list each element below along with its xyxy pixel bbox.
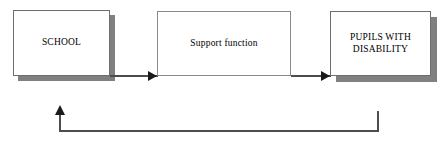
arrow-right-icon-school-to-support (148, 71, 157, 81)
arrow-right-icon-support-to-pupils (321, 71, 330, 81)
node-school[interactable]: SCHOOL (13, 10, 110, 76)
arrow-up-icon-feedback-to-school (55, 105, 65, 115)
diagram-canvas: SCHOOL Support function PUPILS WITH DISA… (0, 0, 445, 147)
edge-feedback-segment-up (59, 114, 61, 131)
edge-feedback-segment-down (377, 111, 379, 132)
node-pupils-with-disability-label: PUPILS WITH DISABILITY (350, 32, 411, 54)
node-school-label: SCHOOL (42, 37, 81, 48)
node-support-function-label: Support function (190, 38, 257, 49)
edge-feedback-segment-horizontal (59, 130, 379, 132)
node-pupils-with-disability[interactable]: PUPILS WITH DISABILITY (330, 11, 431, 76)
node-support-function[interactable]: Support function (157, 11, 291, 76)
